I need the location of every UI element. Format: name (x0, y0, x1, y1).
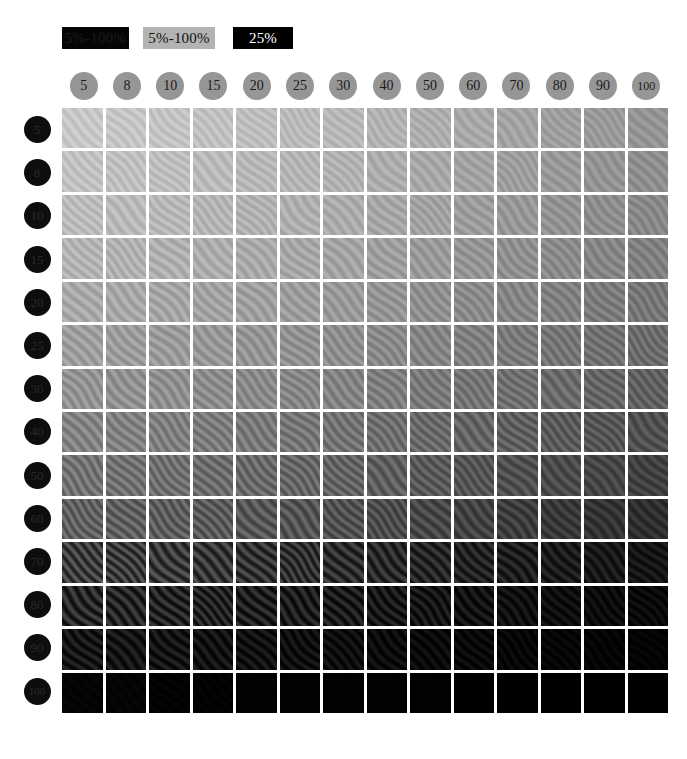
cell-texture (454, 195, 495, 235)
grid-cell (149, 673, 190, 713)
row-header-circle: 15 (24, 246, 51, 273)
grid-cell (323, 108, 364, 148)
cell-texture (410, 195, 451, 235)
cell-texture (628, 412, 669, 452)
cell-texture (149, 108, 190, 148)
cell-texture (62, 325, 103, 365)
grid-cell (454, 629, 495, 669)
row-header-cell: 50 (20, 454, 54, 497)
grid-cell (323, 542, 364, 582)
cell-texture (280, 412, 321, 452)
grid-cell (323, 455, 364, 495)
grid-cell (410, 629, 451, 669)
cell-texture (541, 586, 582, 626)
legend-gray-swatch: 5%-100% (143, 27, 215, 49)
cell-texture (193, 673, 234, 713)
row-header-cell: 100 (20, 669, 54, 712)
cell-texture (541, 238, 582, 278)
grid-cell (323, 586, 364, 626)
grid-cell (410, 455, 451, 495)
grid-cell (541, 455, 582, 495)
cell-texture (106, 108, 147, 148)
grid-cell (454, 455, 495, 495)
cell-texture (323, 151, 364, 191)
grid-cell (280, 325, 321, 365)
grid-cell (149, 108, 190, 148)
grid-cell (193, 673, 234, 713)
grid-cell (410, 412, 451, 452)
column-header-cell: 90 (581, 72, 624, 100)
grid-cell (236, 151, 277, 191)
cell-texture (62, 108, 103, 148)
cell-texture (323, 542, 364, 582)
grid-cell (323, 499, 364, 539)
column-header-circle: 50 (416, 72, 444, 100)
row-header-circle: 90 (24, 634, 51, 661)
cell-texture (236, 282, 277, 322)
cell-texture (584, 542, 625, 582)
cell-texture (410, 499, 451, 539)
grid-cell (323, 195, 364, 235)
legend-label: 25% (249, 31, 277, 46)
column-header-cell: 40 (365, 72, 408, 100)
grid-cell (410, 499, 451, 539)
grid-cell (149, 455, 190, 495)
cell-texture (628, 325, 669, 365)
cell-texture (541, 369, 582, 409)
grid-cell (280, 282, 321, 322)
grid-cell (541, 195, 582, 235)
cell-texture (497, 499, 538, 539)
cell-texture (323, 586, 364, 626)
row-header-cell: 60 (20, 497, 54, 540)
cell-texture (541, 282, 582, 322)
cell-texture (628, 195, 669, 235)
cell-texture (367, 369, 408, 409)
cell-texture (236, 195, 277, 235)
grid-cell (106, 629, 147, 669)
cell-texture (106, 629, 147, 669)
grid-cell (584, 673, 625, 713)
grid-cell (628, 151, 669, 191)
cell-texture (149, 499, 190, 539)
cell-texture (236, 325, 277, 365)
cell-texture (541, 195, 582, 235)
grid-cell (323, 325, 364, 365)
cell-texture (149, 629, 190, 669)
grid-cell (62, 282, 103, 322)
grid-cell (62, 629, 103, 669)
grid-cell (280, 586, 321, 626)
grid-cell (62, 151, 103, 191)
row-header-circle: 50 (24, 462, 51, 489)
grid-cell (323, 282, 364, 322)
cell-texture (236, 542, 277, 582)
row-header-circle: 20 (24, 289, 51, 316)
grid-cell (584, 238, 625, 278)
cell-texture (62, 238, 103, 278)
grid-cell (62, 108, 103, 148)
row-header-circle: 8 (24, 159, 51, 186)
grid-cell (149, 195, 190, 235)
grid-cell (323, 151, 364, 191)
grid-cell (584, 586, 625, 626)
grid-cell (280, 151, 321, 191)
column-header-cell: 20 (235, 72, 278, 100)
cell-texture (628, 586, 669, 626)
grid-cell (541, 629, 582, 669)
cell-texture (280, 195, 321, 235)
grid-cell (106, 108, 147, 148)
cell-texture (454, 412, 495, 452)
cell-texture (454, 455, 495, 495)
grid-cell (149, 499, 190, 539)
cell-texture (62, 412, 103, 452)
cell-texture (236, 108, 277, 148)
grid-cell (62, 542, 103, 582)
cell-texture (584, 151, 625, 191)
cell-texture (584, 108, 625, 148)
cell-texture (193, 238, 234, 278)
grid-cell (584, 499, 625, 539)
grid-cell (541, 108, 582, 148)
cell-texture (410, 629, 451, 669)
cell-texture (149, 673, 190, 713)
cell-texture (106, 542, 147, 582)
grid-cell (367, 629, 408, 669)
